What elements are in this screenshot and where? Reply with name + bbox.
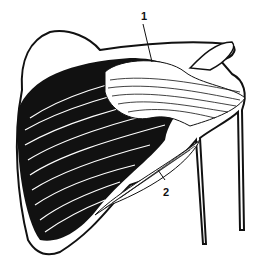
label-2: 2	[163, 186, 169, 198]
label-1: 1	[141, 10, 147, 22]
scapula-illustration	[0, 0, 264, 278]
